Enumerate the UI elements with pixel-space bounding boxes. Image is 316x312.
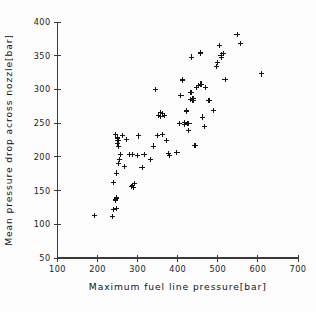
x-tick-label: 400 xyxy=(169,264,186,274)
data-point xyxy=(186,128,191,133)
x-tick-label: 700 xyxy=(290,264,307,274)
y-tick-label: 400 xyxy=(34,17,51,27)
y-tick-label: 100 xyxy=(34,219,51,229)
data-point xyxy=(180,77,185,82)
data-point xyxy=(189,54,194,59)
data-point xyxy=(141,152,146,157)
data-point xyxy=(153,87,158,92)
data-point xyxy=(160,132,165,137)
data-point xyxy=(198,50,203,55)
x-tick-label: 300 xyxy=(129,264,146,274)
data-point xyxy=(200,114,205,119)
data-point xyxy=(259,71,264,76)
scatter-plot-figure: 5010015020025030035040010020030040050060… xyxy=(0,0,316,312)
data-point xyxy=(148,157,153,162)
chart-canvas: 5010015020025030035040010020030040050060… xyxy=(0,0,316,312)
y-tick-label: 350 xyxy=(34,51,51,61)
data-point xyxy=(217,43,222,48)
x-tick-label: 100 xyxy=(49,264,66,274)
data-point xyxy=(129,152,134,157)
data-point xyxy=(124,137,129,142)
data-point xyxy=(202,124,207,129)
data-point xyxy=(116,143,121,148)
data-point xyxy=(111,207,116,212)
data-point xyxy=(139,165,144,170)
y-axis-title: Mean pressure drop across nozzle[bar] xyxy=(3,34,14,246)
data-point xyxy=(178,93,183,98)
y-tick-label: 300 xyxy=(34,84,51,94)
data-point xyxy=(184,108,189,113)
data-point xyxy=(211,108,216,113)
data-point xyxy=(117,157,122,162)
data-point xyxy=(177,121,182,126)
data-point xyxy=(127,152,132,157)
data-point xyxy=(206,98,211,103)
data-point xyxy=(238,41,243,46)
data-point-group xyxy=(92,32,264,219)
data-point xyxy=(188,90,193,95)
y-tick-label: 200 xyxy=(34,152,51,162)
x-axis-title: Maximum fuel line pressure[bar] xyxy=(89,281,267,292)
y-tick-label: 150 xyxy=(34,186,51,196)
data-point xyxy=(203,85,208,90)
data-point xyxy=(116,161,121,166)
x-tick-label: 600 xyxy=(250,264,267,274)
data-point xyxy=(135,153,140,158)
data-point xyxy=(114,170,119,175)
data-point xyxy=(118,152,123,157)
data-point xyxy=(115,138,120,143)
data-point xyxy=(136,133,141,138)
data-point xyxy=(111,180,116,185)
x-tick-label: 200 xyxy=(89,264,106,274)
data-point xyxy=(122,164,127,169)
data-point xyxy=(164,138,169,143)
data-point xyxy=(222,77,227,82)
y-tick-label: 50 xyxy=(39,253,50,263)
data-point xyxy=(120,133,125,138)
data-point xyxy=(110,214,115,219)
data-point xyxy=(92,213,97,218)
x-tick-label: 500 xyxy=(209,264,226,274)
data-point xyxy=(234,32,239,37)
data-point xyxy=(174,150,179,155)
data-point xyxy=(151,143,156,148)
data-point xyxy=(114,206,119,211)
data-point xyxy=(192,143,197,148)
y-tick-label: 250 xyxy=(34,118,51,128)
data-point xyxy=(155,133,160,138)
